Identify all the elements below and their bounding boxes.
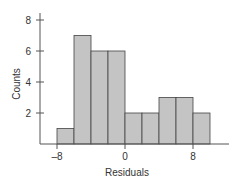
x-tick-label: 0 — [122, 151, 128, 162]
y-axis-label: Counts — [11, 68, 22, 100]
y-tick-label: 6 — [25, 46, 31, 57]
y-tick-label: 2 — [25, 108, 31, 119]
x-tick-label: –8 — [51, 151, 63, 162]
histogram-bar — [74, 36, 91, 145]
x-axis-label: Residuals — [105, 167, 149, 178]
y-tick-label: 4 — [25, 77, 31, 88]
histogram-bar — [159, 98, 176, 145]
histogram-bar — [57, 129, 74, 145]
y-tick-label: 8 — [25, 15, 31, 26]
histogram-bar — [193, 113, 210, 144]
histogram-bar — [142, 113, 159, 144]
histogram-bar — [176, 98, 193, 145]
y-ticks: 2468 — [25, 15, 44, 119]
histogram-bar — [91, 51, 108, 144]
histogram-bar — [125, 113, 142, 144]
histogram-bars — [57, 36, 210, 145]
histogram-bar — [108, 51, 125, 144]
x-ticks: –808 — [51, 144, 196, 162]
histogram-chart: 2468 –808 Counts Residuals — [0, 0, 237, 187]
x-tick-label: 8 — [190, 151, 196, 162]
